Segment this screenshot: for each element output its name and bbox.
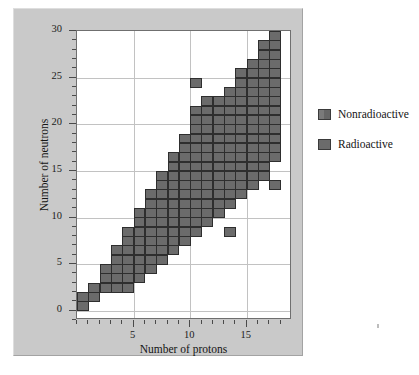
nuclide-cell [145,236,157,246]
nuclide-cell [235,87,247,97]
nuclide-cell [201,124,213,134]
nuclide-cell [258,162,270,172]
nuclide-cell [258,68,270,78]
nuclide-cell [247,68,259,78]
nuclide-cell [201,96,213,106]
y-tick-major [69,310,76,311]
nuclide-cell [134,236,146,246]
nuclide-cell [224,96,236,106]
nuclide-cell [201,180,213,190]
nuclide-cell [100,273,112,283]
nuclide-cell [156,227,168,237]
nuclide-cell [190,152,202,162]
nuclide-cell [111,273,123,283]
nuclide-cell [224,180,236,190]
nuclide-cell [168,162,180,172]
y-tick-minor [72,151,76,152]
x-tick-minor [212,320,213,324]
nuclide-cell [100,264,112,274]
x-axis-title: Number of protons [76,343,291,355]
nuclide-cell [201,152,213,162]
nuclide-cell [269,106,281,116]
y-tick-minor [72,133,76,134]
nuclide-cell [156,217,168,227]
nuclide-cell [269,78,281,88]
x-tick-minor [76,320,77,324]
nuclide-cell [224,227,236,237]
nuclide-cell [258,87,270,97]
nuclide-cell [179,134,191,144]
nuclide-cell [201,171,213,181]
nuclide-cell [201,134,213,144]
nuclide-cell [235,124,247,134]
y-tick-minor [72,291,76,292]
nuclide-cell [224,199,236,209]
nuclide-cell [224,134,236,144]
y-tick-major [69,263,76,264]
y-tick-label: 30 [28,24,62,34]
x-tick-major [246,320,247,327]
nuclide-cell [122,283,134,293]
legend-label-radioactive: Radioactive [338,138,393,150]
nuclide-cell [235,96,247,106]
nuclide-cell [179,189,191,199]
nuclide-cell [269,180,281,190]
y-tick-major [69,30,76,31]
nuclide-cell [201,162,213,172]
y-tick-minor [72,142,76,143]
nuclide-cell [179,199,191,209]
nuclide-cell [224,189,236,199]
nuclide-cell [168,180,180,190]
y-tick-minor [72,226,76,227]
x-tick-minor [268,320,269,324]
y-tick-label: 0 [28,304,62,314]
nuclide-cell [269,152,281,162]
nuclide-cell [247,124,259,134]
y-tick-minor [72,114,76,115]
nuclide-cell [156,199,168,209]
nuclide-cell [168,217,180,227]
y-tick-minor [72,179,76,180]
legend-item-radioactive: Radioactive [318,138,414,150]
x-tick-minor [178,320,179,324]
nuclide-cell [179,143,191,153]
nuclide-cell [247,162,259,172]
y-tick-major [69,217,76,218]
nuclide-cell [111,255,123,265]
nuclide-cell [247,134,259,144]
x-tick-label: 15 [234,330,258,340]
nuclide-cell [156,180,168,190]
nuclide-cell [213,162,225,172]
nuclide-cell [235,68,247,78]
nuclide-cell [224,87,236,97]
x-tick-minor [144,320,145,324]
plot-area [76,30,291,319]
nuclide-cell [258,134,270,144]
nuclide-cell [269,143,281,153]
nuclide-cell [247,171,259,181]
x-tick-minor [87,320,88,324]
nuclide-cell [258,96,270,106]
x-tick-minor [110,320,111,324]
nuclide-cell [88,283,100,293]
nuclide-cell [224,106,236,116]
nuclide-cell [190,162,202,172]
nuclide-cell [235,152,247,162]
nuclide-cell [213,199,225,209]
nuclide-cell [269,40,281,50]
nuclide-cell [247,180,259,190]
nuclide-cell [168,245,180,255]
nuclide-cell [145,217,157,227]
y-axis-title: Number of neutrons [38,65,50,265]
y-tick-major [69,170,76,171]
nuclide-cell [168,236,180,246]
y-tick-minor [72,272,76,273]
nuclide-cell [145,199,157,209]
x-tick-minor [223,320,224,324]
nuclide-cell [190,199,202,209]
x-tick-minor [257,320,258,324]
nuclide-cell [258,40,270,50]
nuclide-cell [156,189,168,199]
x-tick-major [133,320,134,327]
nuclide-cell [190,78,202,88]
